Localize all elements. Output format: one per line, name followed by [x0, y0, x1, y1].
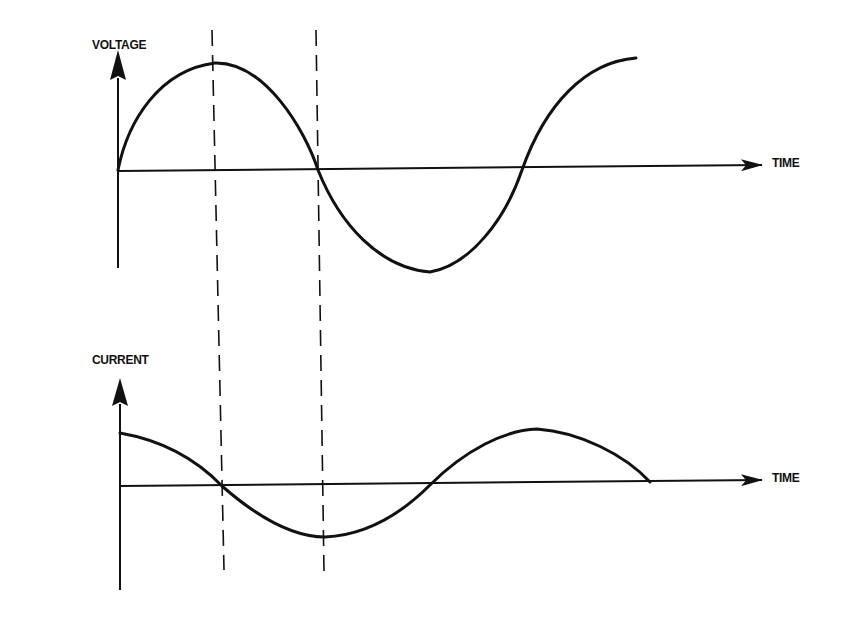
dashed-guide-line-1: [212, 30, 224, 570]
voltage-y-axis-arrow-icon: [110, 50, 126, 80]
voltage-waveform: [118, 58, 636, 272]
voltage-panel: [110, 50, 762, 272]
current-axis-label: CURRENT: [92, 353, 149, 367]
voltage-time-axis-label: TIME: [772, 156, 799, 170]
current-panel: [112, 378, 762, 590]
current-y-axis-arrow-icon: [112, 378, 128, 406]
current-time-axis-label: TIME: [772, 471, 799, 485]
voltage-current-phase-diagram: [0, 0, 844, 617]
voltage-axis-label: VOLTAGE: [92, 38, 146, 52]
dashed-guide-line-2: [316, 30, 324, 572]
